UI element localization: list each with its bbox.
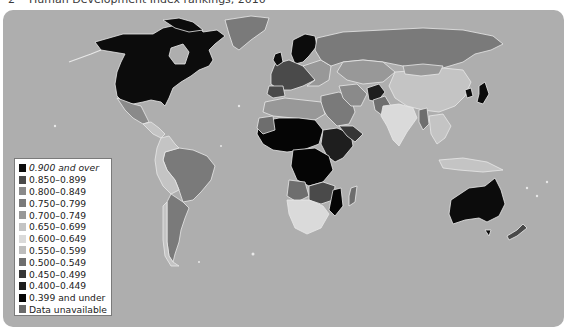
region-alaska-chain xyxy=(69,50,101,62)
legend-label: 0.750–0.799 xyxy=(29,198,86,209)
legend-item: 0.450–0.499 xyxy=(19,268,109,280)
region-southeast-asia xyxy=(429,114,451,144)
legend-item: 0.850–0.899 xyxy=(19,174,109,186)
legend-label: 0.650–0.699 xyxy=(29,221,86,232)
world-map: 0.900 and over 0.850–0.899 0.800–0.849 0… xyxy=(3,10,564,327)
legend-item: 0.700–0.749 xyxy=(19,209,109,221)
legend-label: 0.600–0.649 xyxy=(29,233,86,244)
legend-swatch xyxy=(19,176,26,184)
legend-swatch xyxy=(19,223,26,231)
legend-label: 0.850–0.899 xyxy=(29,174,86,185)
region-argentina xyxy=(167,194,189,262)
legend-swatch xyxy=(19,199,26,207)
region-australia xyxy=(449,178,505,224)
map-title: 2Human Development Index rankings, 2010 xyxy=(8,0,266,6)
region-madagascar xyxy=(349,186,357,206)
legend-swatch xyxy=(19,270,26,278)
legend-item: 0.650–0.699 xyxy=(19,221,109,233)
figure-number: 2 xyxy=(8,0,15,6)
legend-item: 0.500–0.549 xyxy=(19,256,109,268)
map-legend: 0.900 and over 0.850–0.899 0.800–0.849 0… xyxy=(14,158,112,316)
region-central-america xyxy=(143,122,165,138)
region-angola xyxy=(287,180,309,202)
legend-swatch xyxy=(19,282,26,290)
region-scandinavia xyxy=(291,34,317,64)
legend-label: Data unavailable xyxy=(29,304,107,315)
legend-item: 0.600–0.649 xyxy=(19,233,109,245)
legend-item: 0.900 and over xyxy=(19,162,109,174)
region-myanmar xyxy=(419,108,429,130)
legend-swatch xyxy=(19,294,26,302)
legend-item: Data unavailable xyxy=(19,304,109,316)
title-text: Human Development Index rankings, 2010 xyxy=(29,0,266,6)
legend-label: 0.700–0.749 xyxy=(29,210,86,221)
region-mongolia xyxy=(403,64,443,76)
legend-label: 0.550–0.599 xyxy=(29,245,86,256)
region-new-zealand xyxy=(507,224,527,240)
legend-item: 0.800–0.849 xyxy=(19,186,109,198)
legend-item: 0.400–0.449 xyxy=(19,280,109,292)
region-tasmania xyxy=(485,230,491,236)
legend-item: 0.550–0.599 xyxy=(19,245,109,257)
legend-item: 0.750–0.799 xyxy=(19,197,109,209)
region-canada-usa xyxy=(95,24,225,106)
region-greenland xyxy=(225,16,269,50)
region-iberia xyxy=(267,86,285,98)
legend-swatch xyxy=(19,258,26,266)
region-southern-africa xyxy=(287,200,329,234)
region-indonesia xyxy=(439,158,503,172)
region-india xyxy=(381,104,417,146)
legend-swatch xyxy=(19,235,26,243)
region-central-asia xyxy=(337,60,395,84)
region-japan xyxy=(477,82,489,104)
legend-swatch xyxy=(19,164,26,172)
legend-label: 0.800–0.849 xyxy=(29,186,86,197)
legend-label: 0.400–0.449 xyxy=(29,280,86,291)
legend-label: 0.900 and over xyxy=(29,162,99,173)
legend-item: 0.399 and under xyxy=(19,292,109,304)
legend-label: 0.399 and under xyxy=(29,292,105,303)
legend-swatch xyxy=(19,187,26,195)
legend-swatch xyxy=(19,305,26,313)
legend-label: 0.450–0.499 xyxy=(29,269,86,280)
region-korea xyxy=(465,88,473,98)
legend-swatch xyxy=(19,246,26,254)
legend-label: 0.500–0.549 xyxy=(29,257,86,268)
legend-swatch xyxy=(19,211,26,219)
